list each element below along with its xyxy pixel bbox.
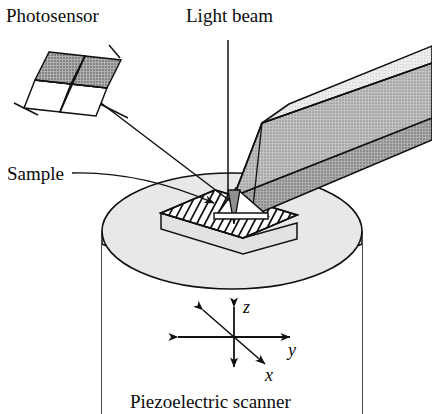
axis-y-label: y [286, 340, 296, 360]
sample-label: Sample [7, 163, 64, 184]
afm-schematic-figure: z y x Photosensor Light beam Sample Piez… [0, 0, 432, 414]
photosensor-lead-top-right [109, 45, 120, 58]
axis-z-label: z [242, 297, 250, 317]
afm-diagram-svg: z y x Photosensor Light beam Sample Piez… [0, 0, 432, 414]
axis-x-label: x [264, 365, 273, 385]
tip-base-bar [214, 213, 268, 219]
cantilever-beam [234, 46, 432, 216]
photosensor-label: Photosensor [6, 5, 100, 26]
light-beam-label: Light beam [186, 5, 273, 26]
photosensor-detector [14, 45, 128, 118]
piezoelectric-scanner-caption: Piezoelectric scanner [130, 391, 292, 412]
